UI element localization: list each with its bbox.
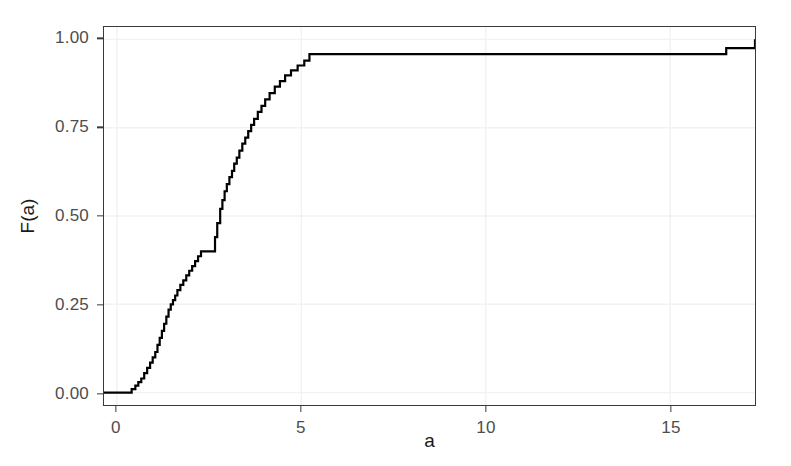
ecdf-chart-figure: 1.000.750.500.250.00 F(a) 051015 a — [0, 0, 791, 466]
y-axis-title-text: F(a) — [17, 199, 39, 234]
plot-svg — [104, 27, 755, 405]
y-tick-mark — [97, 38, 103, 39]
x-tick-mark — [115, 406, 116, 412]
y-tick-mark — [97, 393, 103, 394]
grid-lines-horizontal — [104, 39, 755, 392]
y-tick-label: 1.00 — [55, 28, 89, 48]
y-tick-label: 0.25 — [55, 295, 89, 315]
x-tick-mark — [485, 406, 486, 412]
y-axis-title: F(a) — [14, 26, 42, 406]
y-tick-label: 0.00 — [55, 384, 89, 404]
y-tick-mark — [97, 127, 103, 128]
y-tick-mark — [97, 304, 103, 305]
y-tick-label: 0.50 — [55, 206, 89, 226]
y-tick-label: 0.75 — [55, 117, 89, 137]
x-tick-mark — [670, 406, 671, 412]
x-axis-title: a — [103, 430, 756, 452]
x-tick-mark — [300, 406, 301, 412]
plot-panel — [103, 26, 756, 406]
y-tick-mark — [97, 215, 103, 216]
